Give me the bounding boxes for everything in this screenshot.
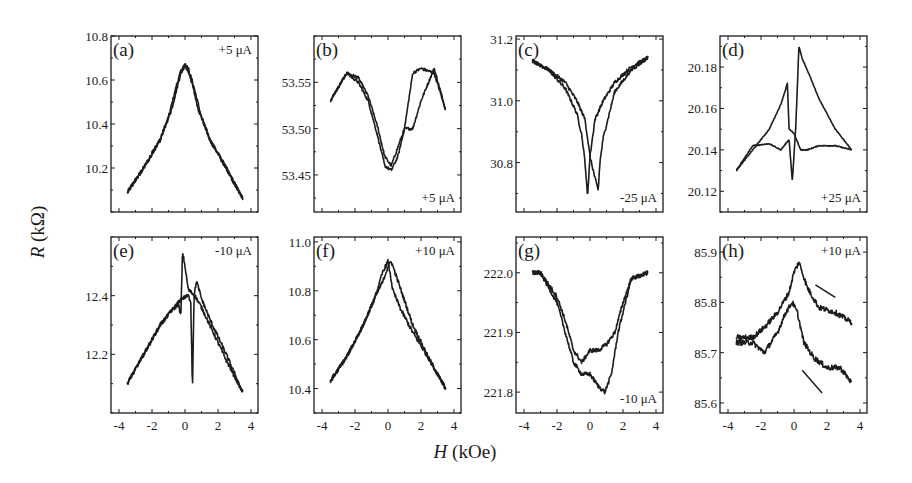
panel-b: 53.4553.5053.55(b)+5 μA [282,36,461,212]
y-axis-unit: (kΩ) [27,206,48,242]
y-tick-label: 20.14 [688,143,718,158]
panel-d: 20.1220.1420.1620.18(d)+25 μA [688,36,867,212]
y-tick-label: 10.2 [85,161,108,176]
panel-f: -4-202410.410.610.811.0(f)+10 μA [288,235,461,433]
y-axis-label: R (kΩ) [27,206,49,259]
x-tick-label: 0 [587,418,594,433]
x-axis-unit: (kOe) [452,441,496,462]
current-label: +10 μA [415,243,456,258]
y-tick-label: 31.0 [490,94,513,109]
current-label: -10 μA [215,243,253,258]
y-tick-label: 221.8 [484,385,513,400]
plots-canvas: 10.210.410.610.8(a)+5 μA53.4553.5053.55(… [0,0,912,483]
panel-g: -4-2024221.8221.9222.0(g)-10 μA [484,237,663,433]
current-label: -10 μA [620,391,658,406]
figure-panel-grid: 10.210.410.610.8(a)+5 μA53.4553.5053.55(… [0,0,912,483]
panel-letter: (a) [113,39,134,61]
y-tick-label: 85.7 [694,346,717,361]
x-tick-label: 4 [451,418,458,433]
panel-letter: (h) [722,240,744,262]
y-tick-label: 10.8 [85,29,108,44]
x-tick-label: 4 [653,418,660,433]
y-tick-label: 12.4 [85,289,108,304]
sweep-arrow-icon [815,285,835,298]
x-tick-label: 0 [791,418,798,433]
data-trace [330,262,446,389]
y-tick-label: 85.8 [694,295,717,310]
y-tick-label: 10.8 [288,284,311,299]
panel-letter: (b) [316,39,338,61]
x-tick-label: 2 [620,418,627,433]
x-axis-variable: H [434,441,448,462]
data-trace [127,64,243,198]
x-tick-label: -2 [147,418,158,433]
y-tick-label: 85.9 [694,245,717,260]
plot-frame [314,36,461,212]
y-axis-variable: R [27,247,48,259]
data-trace [736,48,852,180]
data-trace [127,65,243,200]
panel-letter: (f) [316,240,335,262]
panel-letter: (d) [722,39,744,61]
x-tick-label: 0 [385,418,392,433]
x-tick-label: -4 [519,418,530,433]
x-tick-label: 4 [248,418,255,433]
y-tick-label: 31.2 [490,32,513,47]
current-label: +5 μA [422,190,456,205]
panel-letter: (c) [518,39,539,61]
y-tick-label: 20.12 [688,184,717,199]
y-tick-label: 11.0 [289,235,311,250]
plot-frame [720,36,867,212]
x-tick-label: -2 [552,418,563,433]
x-tick-label: 2 [824,418,831,433]
data-trace [532,271,648,394]
panel-c: 30.831.031.2(c)-25 μA [490,32,663,212]
x-tick-label: -4 [114,418,125,433]
x-tick-label: 2 [215,418,222,433]
y-tick-label: 12.2 [85,347,108,362]
x-tick-label: 4 [857,418,864,433]
y-tick-label: 53.55 [282,75,311,90]
panel-h: -4-202485.685.785.885.9(h)+10 μA [694,237,867,433]
y-tick-label: 10.6 [288,333,311,348]
current-label: -25 μA [620,190,658,205]
y-tick-label: 20.18 [688,60,717,75]
y-tick-label: 10.6 [85,73,108,88]
x-tick-label: -4 [317,418,328,433]
plot-frame [720,237,867,413]
y-tick-label: 222.0 [484,266,513,281]
data-trace [532,56,648,193]
x-tick-label: -4 [723,418,734,433]
data-trace [736,262,852,340]
y-tick-label: 20.16 [688,101,718,116]
data-trace [127,282,243,392]
x-tick-label: -2 [350,418,361,433]
panel-letter: (g) [518,240,540,262]
current-label: +25 μA [821,190,862,205]
panel-a: 10.210.410.610.8(a)+5 μA [85,29,258,212]
current-label: +10 μA [821,243,862,258]
y-tick-label: 85.6 [694,396,717,411]
plot-frame [516,237,663,413]
x-tick-label: 0 [182,418,189,433]
x-tick-label: -2 [756,418,767,433]
y-tick-label: 30.8 [490,156,513,171]
panel-letter: (e) [113,240,134,262]
data-trace [127,254,243,392]
y-tick-label: 221.9 [484,325,513,340]
sweep-arrow-icon [802,370,822,393]
panel-e: -4-202412.212.4(e)-10 μA [85,237,258,433]
y-tick-label: 10.4 [288,382,311,397]
current-label: +5 μA [219,42,253,57]
data-trace [532,57,648,190]
y-tick-label: 53.50 [282,122,311,137]
y-tick-label: 10.4 [85,117,108,132]
data-trace [330,260,446,389]
x-axis-label: H (kOe) [434,441,497,463]
data-trace [330,69,446,167]
y-tick-label: 53.45 [282,168,311,183]
x-tick-label: 2 [418,418,425,433]
